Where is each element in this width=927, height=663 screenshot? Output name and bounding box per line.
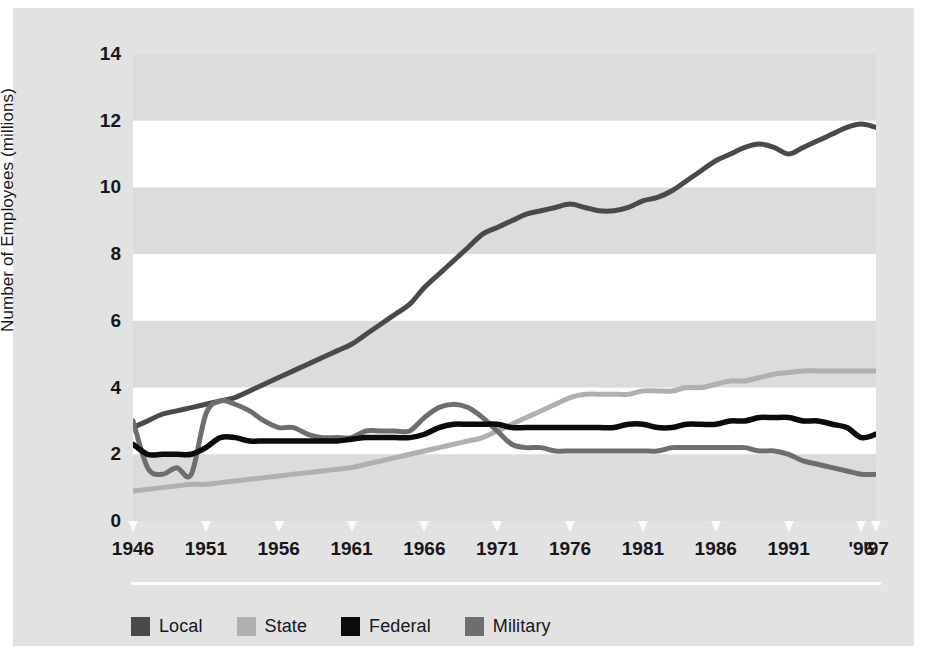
x-tick-mark [128, 521, 138, 532]
y-tick-label: 10 [87, 177, 121, 196]
legend-swatch-icon [237, 617, 256, 636]
x-tick-mark [201, 521, 211, 532]
x-tick-mark [871, 521, 881, 532]
x-tick-label: 1976 [549, 538, 591, 561]
grid-band [133, 187, 876, 254]
x-tick-label: 1966 [403, 538, 445, 561]
legend-label: Federal [369, 616, 431, 637]
chart-legend: LocalStateFederalMilitary [131, 613, 585, 639]
legend-label: State [265, 616, 308, 637]
y-axis-tick-labels: 02468101214 [87, 54, 121, 521]
plot-area [133, 54, 876, 521]
grid-band [133, 454, 876, 521]
y-tick-label: 2 [87, 444, 121, 463]
x-tick-mark [856, 521, 866, 532]
x-tick-mark [638, 521, 648, 532]
legend-divider [131, 582, 881, 585]
y-tick-label: 0 [87, 511, 121, 530]
x-tick-label: 1981 [622, 538, 664, 561]
legend-item-state[interactable]: State [237, 616, 308, 637]
legend-item-local[interactable]: Local [131, 616, 203, 637]
x-tick-mark [419, 521, 429, 532]
y-tick-label: 4 [87, 378, 121, 397]
y-tick-label: 14 [87, 44, 121, 63]
y-tick-label: 8 [87, 244, 121, 263]
x-tick-mark [347, 521, 357, 532]
y-tick-label: 12 [87, 111, 121, 130]
legend-swatch-icon [341, 617, 360, 636]
x-tick-label: 1961 [330, 538, 372, 561]
x-tick-label: 1971 [476, 538, 518, 561]
x-tick-label: 1986 [695, 538, 737, 561]
grid-band [133, 54, 876, 121]
x-tick-mark [492, 521, 502, 532]
x-axis-tick-labels: 1946195119561961196619711976198119861991… [133, 538, 876, 564]
x-tick-mark [711, 521, 721, 532]
x-tick-mark [274, 521, 284, 532]
x-tick-label: 1946 [112, 538, 154, 561]
y-axis-title: Number of Employees (millions) [0, 0, 18, 420]
legend-item-military[interactable]: Military [465, 616, 551, 637]
x-axis-tick-marks [133, 521, 876, 535]
chart-page: Number of Employees (millions) 024681012… [0, 0, 927, 663]
legend-swatch-icon [131, 617, 150, 636]
x-tick-label: 1991 [767, 538, 809, 561]
y-tick-label: 6 [87, 311, 121, 330]
x-tick-mark [784, 521, 794, 532]
x-tick-label: 1956 [258, 538, 300, 561]
figure-panel: Number of Employees (millions) 024681012… [13, 8, 914, 646]
legend-item-federal[interactable]: Federal [341, 616, 431, 637]
x-tick-mark [565, 521, 575, 532]
chart-canvas [133, 54, 876, 521]
legend-label: Local [159, 616, 203, 637]
legend-label: Military [493, 616, 551, 637]
legend-swatch-icon [465, 617, 484, 636]
x-tick-label: 1951 [185, 538, 227, 561]
x-tick-label: '97 [863, 538, 889, 561]
